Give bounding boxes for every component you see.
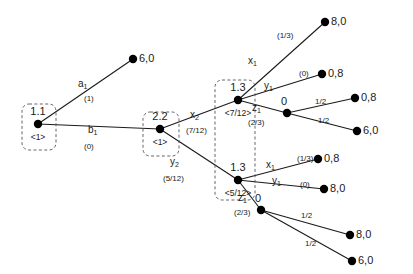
tree-edge (160, 129, 238, 180)
edge-action-label: x2 (190, 110, 199, 120)
edge-probability-label: (2/3) (234, 209, 250, 217)
edge-probability-label: (1/3) (297, 155, 313, 163)
terminal-node (129, 55, 137, 63)
edge-action-label: y1 (264, 81, 273, 91)
terminal-payoff-label: 0,8 (328, 68, 343, 79)
terminal-payoff-label: 8,0 (330, 183, 345, 194)
tree-edge (238, 180, 324, 189)
terminal-node (320, 185, 328, 193)
terminal-node (348, 257, 356, 265)
edge-probability-label: (0) (84, 143, 94, 151)
chance-node (257, 206, 265, 214)
terminal-payoff-label: 6,0 (358, 255, 373, 266)
terminal-payoff-label: 8,0 (331, 16, 346, 27)
decision-node-label: 1.1 (30, 106, 45, 117)
edge-probability-label: (7/12) (186, 127, 207, 135)
terminal-node (321, 18, 329, 26)
decision-node (234, 96, 242, 104)
edge-probability-label: 1/2 (301, 212, 312, 220)
edge-action-label: b1 (88, 125, 97, 135)
edge-probability-label: (5/12) (163, 175, 184, 183)
terminal-node (353, 127, 361, 135)
terminal-payoff-label: 6,0 (139, 53, 154, 64)
decision-node (34, 120, 42, 128)
edge-probability-label: (1/3) (277, 32, 293, 40)
terminal-payoff-label: 8,0 (356, 229, 371, 240)
decision-node-belief: <1> (31, 133, 46, 142)
edge-action-label: y2 (170, 157, 179, 167)
tree-graphics (0, 0, 413, 274)
terminal-payoff-label: 0,8 (324, 153, 339, 164)
edge-probability-label: (0) (299, 70, 309, 78)
decision-node-label: 2.2 (152, 111, 167, 122)
edge-action-label: z1 (252, 103, 261, 113)
terminal-node (346, 231, 354, 239)
edge-probability-label: 1/2 (305, 240, 316, 248)
decision-node (156, 125, 164, 133)
terminal-node (314, 155, 322, 163)
decision-node-label: 1.3 (230, 82, 245, 93)
game-tree-figure: 1.1<1>2.2<1>1.3<7/12>1.3<5/12>006,08,00,… (0, 0, 413, 274)
chance-node (283, 109, 291, 117)
edge-action-label: a1 (78, 79, 87, 89)
edge-probability-label: (2/3) (248, 119, 264, 127)
edge-probability-label: 1/2 (315, 98, 326, 106)
edge-probability-label: (1) (84, 95, 94, 103)
tree-edge (38, 59, 133, 124)
edge-action-label: x1 (248, 56, 257, 66)
edge-action-label: z1 (238, 193, 247, 203)
edge-probability-label: 1/2 (318, 117, 329, 125)
decision-node (234, 176, 242, 184)
chance-node-label: 0 (255, 193, 261, 204)
decision-node-label: 1.3 (230, 162, 245, 173)
decision-node-belief: <7/12> (225, 109, 251, 118)
edge-action-label: x1 (266, 160, 275, 170)
edge-probability-label: (0) (300, 181, 310, 189)
terminal-payoff-label: 0,8 (361, 92, 376, 103)
decision-node-belief: <1> (153, 138, 168, 147)
information-set-boxes (22, 80, 255, 200)
nodes-group (34, 18, 361, 265)
edge-action-label: y1 (272, 176, 281, 186)
terminal-node (318, 70, 326, 78)
terminal-payoff-label: 6,0 (363, 125, 378, 136)
terminal-node (351, 94, 359, 102)
chance-node-label: 0 (281, 96, 287, 107)
